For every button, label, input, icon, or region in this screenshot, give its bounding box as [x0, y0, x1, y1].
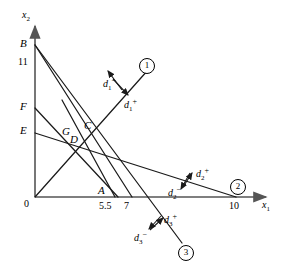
- origin-label: 0: [24, 199, 29, 209]
- constraint-marker-3: 3: [178, 245, 194, 261]
- point-label-G: G: [62, 126, 70, 137]
- deviation-arrows: [108, 71, 192, 230]
- point-label-B: B: [20, 38, 27, 49]
- x-tick-7: 7: [124, 201, 129, 211]
- deviation-label-d3-plus: d3+: [164, 213, 177, 228]
- goal-programming-figure: x2 x1 0 11 5.5 7 10 B F E G C D A 1 2 3 …: [0, 0, 285, 276]
- point-label-D: D: [70, 134, 78, 145]
- point-label-A: A: [98, 185, 105, 196]
- d3-minus-arrow: [149, 216, 161, 229]
- d3-plus-arrow: [150, 218, 163, 230]
- line-B-extended: [35, 45, 182, 243]
- x-tick-5-5: 5.5: [99, 201, 112, 211]
- constraint-marker-2: 2: [230, 179, 246, 195]
- d2-minus-arrow: [181, 173, 190, 189]
- deviation-label-d2-plus: d2+: [196, 167, 209, 182]
- deviation-label-d3-minus: d3−: [134, 231, 147, 246]
- x-tick-10: 10: [229, 201, 239, 211]
- point-label-F: F: [20, 101, 27, 112]
- y-tick-11: 11: [18, 57, 28, 67]
- constraint-lines: [35, 45, 236, 243]
- axis-group: [35, 26, 266, 197]
- x-axis-label: x1: [262, 200, 270, 213]
- constraint-marker-1: 1: [139, 58, 155, 74]
- y-axis-label: x2: [22, 10, 30, 23]
- line-E-to-10: [35, 133, 236, 197]
- line-A-steep: [62, 100, 115, 197]
- deviation-label-d1-minus: d1−: [103, 77, 116, 92]
- point-label-E: E: [20, 125, 27, 136]
- deviation-label-d1-plus: d1+: [124, 98, 137, 113]
- point-label-C: C: [84, 120, 91, 131]
- line-origin-ray: [35, 70, 148, 197]
- deviation-label-d2-minus: d2−: [168, 186, 181, 201]
